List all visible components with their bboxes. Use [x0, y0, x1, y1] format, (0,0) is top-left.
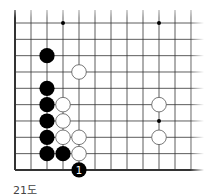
white-stone — [72, 65, 87, 80]
go-board: 1 — [0, 0, 216, 180]
diagram-caption: 21도 — [13, 181, 37, 195]
white-stone — [152, 97, 167, 112]
right-fade — [190, 0, 204, 172]
black-stone — [39, 97, 54, 112]
white-stone — [152, 130, 167, 145]
white-stone — [56, 97, 71, 112]
move-number-label: 1 — [76, 165, 82, 176]
white-stone — [72, 130, 87, 145]
black-stone — [39, 113, 54, 128]
top-fade — [0, 0, 216, 18]
white-stone — [56, 130, 71, 145]
white-stone — [72, 146, 87, 161]
black-stone — [39, 48, 54, 63]
black-stone — [39, 146, 54, 161]
star-point — [61, 21, 65, 25]
white-stone — [56, 114, 71, 129]
black-stone — [39, 130, 54, 145]
stones: 1 — [39, 48, 166, 178]
black-stone — [55, 146, 70, 161]
star-point — [157, 21, 161, 25]
star-point — [157, 119, 161, 123]
black-stone — [39, 81, 54, 96]
